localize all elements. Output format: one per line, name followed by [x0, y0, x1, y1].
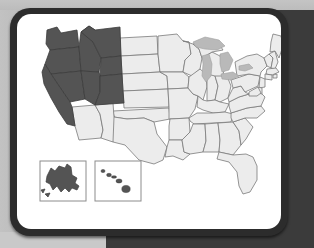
state-oregon[interactable] — [45, 47, 81, 74]
state-nebraska[interactable] — [122, 72, 168, 91]
state-kansas[interactable] — [123, 89, 169, 108]
us-states-map[interactable] — [17, 14, 281, 229]
state-alabama[interactable] — [203, 123, 220, 152]
map-panel-frame — [10, 8, 288, 236]
state-connecticut[interactable] — [265, 74, 272, 80]
state-north-dakota[interactable] — [120, 36, 158, 56]
hawaii-big-island — [122, 185, 130, 192]
state-alaska[interactable] — [41, 164, 79, 197]
hawaii-kauai — [101, 169, 105, 172]
state-wyoming[interactable] — [100, 56, 122, 76]
map-panel-surface — [17, 14, 281, 229]
hawaii-oahu — [107, 173, 112, 176]
state-hawaii[interactable] — [101, 169, 130, 192]
screenshot-stage — [0, 0, 314, 248]
alaska-inset[interactable] — [40, 161, 86, 201]
hawaii-maui — [116, 179, 122, 183]
state-florida[interactable] — [217, 152, 257, 194]
state-new-york[interactable] — [235, 54, 267, 76]
state-new-jersey[interactable] — [259, 77, 265, 88]
state-south-dakota[interactable] — [121, 54, 160, 74]
hawaii-inset[interactable] — [95, 161, 141, 201]
state-rhode-island[interactable] — [273, 74, 277, 78]
map-container[interactable] — [17, 14, 281, 229]
hawaii-molokai — [111, 176, 116, 178]
state-washington[interactable] — [46, 27, 79, 50]
lake-huron-shape — [220, 52, 233, 72]
